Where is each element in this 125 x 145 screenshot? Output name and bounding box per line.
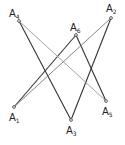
point-label-subscript: 1 (16, 117, 20, 124)
point-a5-marker (105, 100, 108, 103)
point-label-a6: A6 (70, 22, 81, 34)
point-label-a3: A3 (66, 125, 77, 137)
point-line-diagram: A1A2A3A4A5A6 (0, 0, 125, 145)
point-a4-marker (18, 20, 21, 23)
point-a3-marker (70, 119, 73, 122)
point-label-subscript: 4 (16, 13, 20, 20)
point-label-subscript: 2 (113, 8, 117, 15)
point-label-subscript: 6 (77, 27, 81, 34)
segments-group (14, 18, 111, 120)
segment-a6-a5 (76, 35, 106, 101)
segment-a4-a5 (19, 21, 106, 101)
point-a2-marker (110, 17, 113, 20)
point-label-a5: A5 (102, 106, 113, 118)
point-label-subscript: 3 (73, 130, 77, 137)
segment-a6-a1 (14, 35, 76, 107)
point-a6-marker (75, 34, 78, 37)
labels-group: A1A2A3A4A5A6 (9, 3, 117, 137)
point-label-a2: A2 (106, 3, 117, 15)
point-label-a4: A4 (9, 8, 20, 20)
point-label-a1: A1 (9, 112, 20, 124)
point-label-subscript: 5 (109, 111, 113, 118)
points-group (13, 17, 113, 122)
point-a1-marker (13, 106, 16, 109)
segment-a1-a2 (14, 18, 111, 107)
